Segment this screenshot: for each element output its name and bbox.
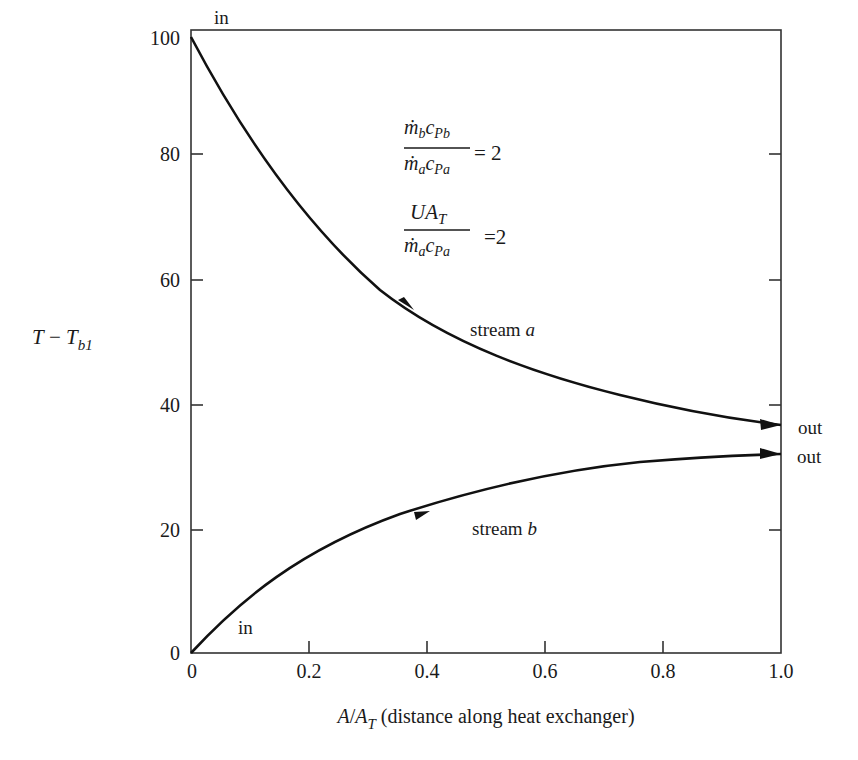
svg-text:80: 80	[160, 143, 180, 165]
svg-text:40: 40	[160, 394, 180, 416]
x-tick-labels: 0 0.2 0.4 0.6 0.8 1.0	[187, 660, 794, 682]
svg-text:ṁbcPb: ṁbcPb	[404, 116, 450, 141]
ntu-equation: UAT ṁacPa =2	[404, 200, 506, 259]
svg-text:0: 0	[187, 660, 197, 682]
svg-text:0.2: 0.2	[297, 660, 322, 682]
stream-b-curve	[191, 454, 781, 653]
svg-text:ṁacPa: ṁacPa	[404, 152, 450, 177]
stream-b-out-label: out	[797, 446, 822, 467]
x-ticks	[309, 641, 663, 653]
stream-b-arrow-mid	[414, 511, 430, 520]
x-axis-label: A/AT (distance along heat exchanger)	[335, 705, 634, 732]
svg-text:= 2: = 2	[474, 141, 502, 165]
svg-text:UAT: UAT	[410, 200, 448, 227]
plot-frame	[191, 30, 781, 653]
stream-b-in-label: in	[238, 617, 253, 638]
stream-b-arrow-end	[760, 448, 781, 459]
stream-a-label: stream a	[470, 319, 535, 340]
svg-text:0.4: 0.4	[415, 660, 440, 682]
capacity-ratio-equation: ṁbcPb ṁacPa = 2	[404, 116, 502, 177]
stream-a-out-label: out	[798, 417, 823, 438]
svg-text:0.8: 0.8	[651, 660, 676, 682]
svg-text:0.6: 0.6	[533, 660, 558, 682]
y-tick-labels: 0 20 40 60 80 100	[150, 27, 180, 664]
y-axis-label: T − Tb1	[32, 325, 93, 353]
svg-text:100: 100	[150, 27, 180, 49]
stream-a-in-label-text: in	[214, 7, 229, 28]
svg-text:=2: =2	[484, 225, 506, 249]
heat-exchanger-chart: 0 20 40 60 80 100 0 0.2 0.4 0.6 0.8 1.0 …	[0, 0, 858, 760]
svg-text:20: 20	[160, 519, 180, 541]
stream-a-arrow-end	[760, 419, 781, 430]
svg-text:60: 60	[160, 269, 180, 291]
stream-b-label: stream b	[472, 518, 537, 539]
svg-text:ṁacPa: ṁacPa	[404, 234, 450, 259]
y-ticks	[191, 154, 781, 530]
svg-text:0: 0	[170, 642, 180, 664]
svg-text:1.0: 1.0	[769, 660, 794, 682]
